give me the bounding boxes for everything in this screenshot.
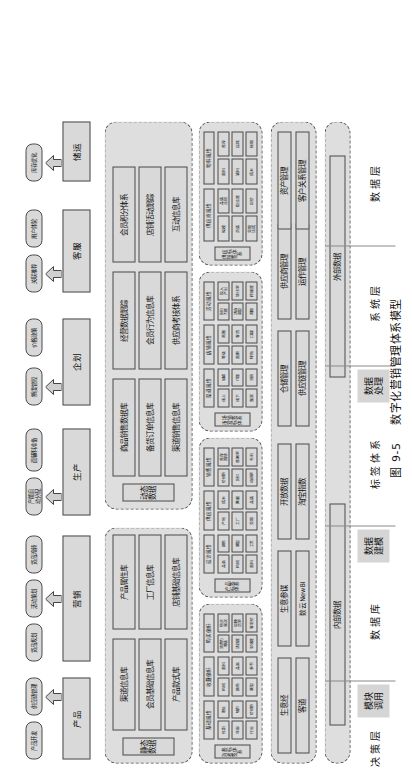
tag-tile[interactable]: 行业 xyxy=(245,720,257,739)
tag-tile[interactable]: 配合度 xyxy=(231,188,243,214)
db-dyn-col3-1[interactable]: 店铺活动跟踪 xyxy=(138,166,161,262)
system-box[interactable]: 供应商管理 xyxy=(277,223,291,319)
decision-chip[interactable]: 关联推荐 xyxy=(25,254,42,292)
db-dyn-col3-2[interactable]: 互动信息库 xyxy=(164,166,187,262)
tag-tile[interactable]: 职业 xyxy=(217,700,229,719)
db-dyn-col2-0[interactable]: 经营数据跟踪 xyxy=(112,271,135,369)
tag-tile[interactable]: 颜色 xyxy=(231,677,243,696)
tag-tile[interactable]: 库存 周转 xyxy=(217,447,229,466)
tag-tile[interactable]: 折扣 xyxy=(231,468,243,487)
tag-tile[interactable]: 版型 xyxy=(231,534,243,553)
tag-tile[interactable]: 消费力 等级 xyxy=(217,634,229,653)
data-source[interactable]: 内部数据 xyxy=(329,503,345,725)
decision-function[interactable]: 储运 xyxy=(62,121,90,181)
tag-tile[interactable]: 辅料 xyxy=(231,159,243,185)
decision-function[interactable]: 营销 xyxy=(62,535,90,661)
tag-tile[interactable]: 版型 xyxy=(245,677,257,696)
tag-tile[interactable]: 资质 xyxy=(231,216,243,242)
tag-tile[interactable]: 规模 xyxy=(217,216,229,242)
tag-subgroup[interactable]: 活动属性 xyxy=(203,281,214,320)
tag-tile[interactable]: 面料 xyxy=(217,656,229,675)
decision-chip[interactable]: 货品流转 xyxy=(25,535,42,573)
tag-tile[interactable]: 客流 xyxy=(231,324,243,343)
tag-subgroup[interactable]: 销售属性 xyxy=(203,447,214,486)
tag-subgroup[interactable]: 收藏偏好 xyxy=(203,656,214,695)
tag-tile[interactable]: 交期 达成 xyxy=(245,216,257,242)
tag-tile[interactable]: 账期 xyxy=(245,131,257,157)
system-box[interactable]: 客道 xyxy=(295,657,309,753)
tag-tile[interactable]: 传播度 xyxy=(245,281,257,300)
db-static-col2-2[interactable]: 店铺基础信息库 xyxy=(164,534,187,629)
tag-tile[interactable]: 工艺 xyxy=(245,534,257,553)
system-box[interactable]: 生意参谋 xyxy=(277,550,291,646)
tag-tile[interactable]: 周期 xyxy=(245,302,257,321)
tag-subgroup[interactable]: 基础属性 xyxy=(203,700,214,739)
tag-tile[interactable]: 折扣 力度 xyxy=(217,302,229,321)
tag-tile[interactable]: 性别 xyxy=(217,720,229,739)
system-box[interactable]: 供应链管理 xyxy=(295,330,309,426)
tag-subgroup[interactable]: 供应属性 xyxy=(203,490,214,529)
tag-tile[interactable]: 季节 xyxy=(245,656,257,675)
tag-tile[interactable]: 交期 xyxy=(245,511,257,530)
decision-chip[interactable]: 库存优化 xyxy=(25,143,42,181)
tag-tile[interactable]: 品质 合格 xyxy=(217,188,229,214)
tag-tile[interactable]: 口碑 xyxy=(245,324,257,343)
tag-subgroup[interactable]: 物料属性 xyxy=(203,131,214,184)
tag-tile[interactable]: 品类 xyxy=(231,656,243,675)
tag-tile[interactable]: 城市 xyxy=(231,700,243,719)
decision-function[interactable]: 产品 xyxy=(62,677,90,759)
tag-tile[interactable]: 转化率 xyxy=(231,281,243,300)
tag-tile[interactable]: 年龄 xyxy=(231,720,243,739)
system-box[interactable]: 开放数据 xyxy=(277,443,291,539)
system-box[interactable]: 资产管理 xyxy=(277,131,291,229)
tag-tile[interactable]: 成本 xyxy=(217,490,229,509)
tag-tile[interactable]: 商圈 xyxy=(217,324,229,343)
tag-tile[interactable]: 成本 xyxy=(245,159,257,185)
decision-chip[interactable]: 货品规划 xyxy=(25,623,42,661)
system-box[interactable]: 运作管理 xyxy=(295,223,309,319)
tag-tile[interactable]: 等级 xyxy=(217,345,229,364)
db-dyn-col2-2[interactable]: 供应商考核体系 xyxy=(164,271,187,369)
tag-tile[interactable]: 售罄率 xyxy=(231,447,243,466)
decision-function[interactable]: 客服 xyxy=(62,209,90,292)
db-static-col1-0[interactable]: 渠道信息库 xyxy=(112,638,135,730)
decision-chip[interactable]: 产能自 动分配 xyxy=(25,477,42,515)
tag-tile[interactable]: 库存 xyxy=(217,131,229,157)
tag-tile[interactable]: 活动 类型 xyxy=(231,302,243,321)
decision-chip[interactable]: 价格政策 xyxy=(25,318,42,356)
tag-subgroup[interactable]: 设计属性 xyxy=(203,534,214,573)
db-static-col2-0[interactable]: 产品属性库 xyxy=(112,534,135,629)
tag-tile[interactable]: 价格带 xyxy=(217,468,229,487)
db-dyn-col3-0[interactable]: 会员积分体系 xyxy=(112,166,135,262)
decision-chip[interactable]: 产品开发 xyxy=(25,721,42,759)
tag-tile[interactable]: 线下 xyxy=(231,388,243,407)
tag-tile[interactable]: 代理 xyxy=(231,368,243,387)
tag-tile[interactable]: 工厂 xyxy=(231,511,243,530)
db-static-col1-2[interactable]: 产品款式库 xyxy=(164,638,187,730)
tag-tile[interactable]: 风格 xyxy=(217,677,229,696)
tag-tile[interactable]: 分销 xyxy=(245,368,257,387)
db-static-col2-1[interactable]: 工厂信息库 xyxy=(138,534,161,629)
system-box[interactable]: 仓储管理 xyxy=(277,330,291,426)
decision-chip[interactable]: 供应链管理 xyxy=(25,677,42,715)
tag-tile[interactable]: 加盟 xyxy=(217,368,229,387)
tag-tile[interactable]: 产地 xyxy=(217,511,229,530)
db-dyn-col1-1[interactable]: 备货订单信息库 xyxy=(138,378,161,476)
db-dyn-col1-0[interactable]: 商品销售数据库 xyxy=(112,378,135,476)
db-dyn-col1-2[interactable]: 渠道销售信息库 xyxy=(164,378,187,476)
data-source[interactable]: 外部数据 xyxy=(329,155,345,377)
tag-tile[interactable]: 毛利 xyxy=(245,447,257,466)
db-dyn-col2-1[interactable]: 会员行为信息库 xyxy=(138,271,161,369)
system-box[interactable]: 客户关系管理 xyxy=(295,131,309,229)
tag-tile[interactable]: 面料 xyxy=(245,554,257,573)
tag-tile[interactable]: 活跃度 xyxy=(231,634,243,653)
system-box[interactable]: 数云NewBI xyxy=(295,550,309,646)
decision-chip[interactable]: 用户体验 xyxy=(25,209,42,247)
decision-chip[interactable]: 活动策划 xyxy=(25,579,42,617)
tag-tile[interactable]: 品质 xyxy=(245,490,257,509)
tag-tile[interactable]: 动销率 xyxy=(245,468,257,487)
tag-subgroup[interactable]: 渠道属性 xyxy=(203,368,214,407)
decision-function[interactable]: 生产 xyxy=(62,428,90,515)
tag-tile[interactable]: 购买 频次 xyxy=(217,613,229,632)
tag-tile[interactable]: 退换 货率 xyxy=(231,613,243,632)
